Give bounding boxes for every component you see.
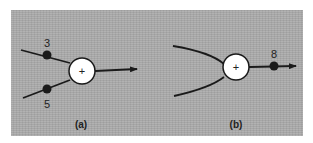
caption-a: (a)	[75, 119, 87, 130]
token-dot-lower	[43, 85, 52, 94]
caption-b: (b)	[230, 119, 243, 130]
input-edge-upper	[173, 46, 224, 64]
output-edge-a	[95, 69, 137, 71]
input-edge-lower	[174, 77, 224, 96]
adder-diagrams: 3 5 + (a) + 8 (b)	[0, 0, 313, 143]
token-dot-output	[270, 62, 279, 71]
output-value: 8	[271, 48, 277, 60]
token-dot-upper	[43, 51, 52, 60]
plus-symbol: +	[233, 61, 239, 73]
input-value-upper: 3	[44, 37, 50, 49]
panel-a: 3 5 + (a)	[21, 37, 137, 130]
panel-b: + 8 (b)	[173, 46, 296, 130]
plus-symbol: +	[79, 65, 85, 77]
input-value-lower: 5	[44, 98, 50, 110]
